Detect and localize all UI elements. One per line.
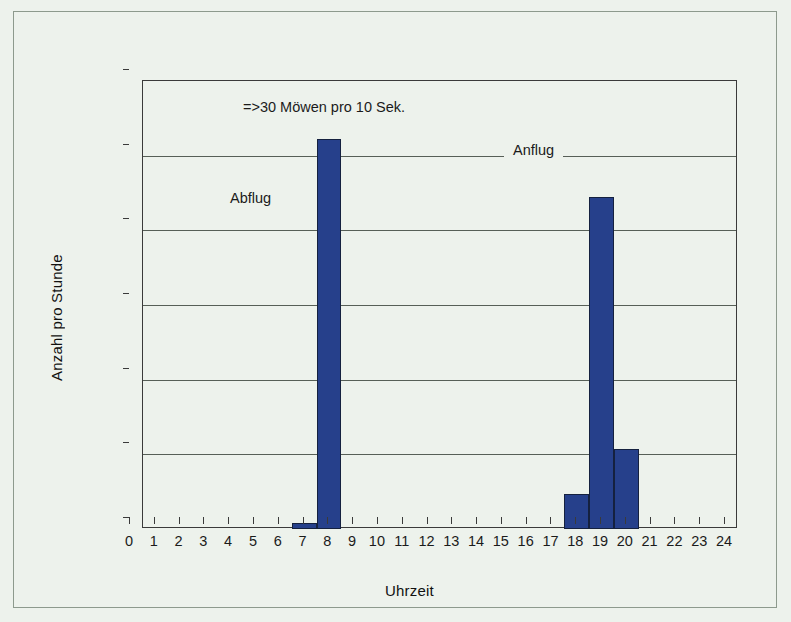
x-tick-mark	[625, 517, 626, 524]
gridline	[143, 156, 736, 157]
x-axis-title: Uhrzeit	[14, 582, 791, 599]
x-tick-mark	[526, 517, 527, 524]
annotation-rate-note: =>30 Möwen pro 10 Sek.	[243, 99, 405, 115]
x-tick-mark	[253, 517, 254, 524]
x-tick-mark	[650, 517, 651, 524]
annotation-anflug: Anflug	[504, 142, 563, 158]
y-tick-mark	[123, 144, 129, 145]
y-tick-mark	[123, 442, 129, 443]
gridline	[143, 380, 736, 381]
x-tick-mark	[129, 517, 130, 524]
y-tick-mark	[123, 69, 129, 70]
x-tick-mark	[699, 517, 700, 524]
bar	[317, 139, 342, 529]
x-tick-mark	[550, 517, 551, 524]
x-tick-mark	[377, 517, 378, 524]
bar	[292, 523, 317, 529]
x-tick-mark	[575, 517, 576, 524]
chart-figure: Anzahl pro Stunde 02.0004.0006.0008.0001…	[0, 0, 791, 622]
x-tick-mark	[674, 517, 675, 524]
x-tick-mark	[476, 517, 477, 524]
y-tick-mark	[123, 293, 129, 294]
bar	[564, 494, 589, 529]
x-tick-mark	[179, 517, 180, 524]
x-tick-mark	[203, 517, 204, 524]
x-tick-mark	[402, 517, 403, 524]
y-tick-mark	[123, 368, 129, 369]
y-tick-mark	[123, 218, 129, 219]
gridline	[143, 454, 736, 455]
x-tick-mark	[154, 517, 155, 524]
chart-frame: Anzahl pro Stunde 02.0004.0006.0008.0001…	[13, 11, 777, 608]
annotation-abflug: Abflug	[230, 190, 271, 206]
x-tick-mark	[724, 517, 725, 524]
x-tick-mark	[278, 517, 279, 524]
gridline	[143, 230, 736, 231]
x-tick-mark	[501, 517, 502, 524]
x-tick-mark	[600, 517, 601, 524]
x-tick-mark	[352, 517, 353, 524]
x-tick-mark	[303, 517, 304, 524]
x-tick-mark	[451, 517, 452, 524]
x-tick-mark	[228, 517, 229, 524]
x-tick-mark	[327, 517, 328, 524]
plot-area	[142, 80, 737, 528]
bar	[589, 197, 614, 529]
gridline	[143, 305, 736, 306]
bar	[614, 449, 639, 529]
y-axis: 02.0004.0006.0008.00010.00012.000	[1, 12, 129, 622]
x-tick-label: 24	[709, 533, 739, 549]
x-tick-mark	[427, 517, 428, 524]
